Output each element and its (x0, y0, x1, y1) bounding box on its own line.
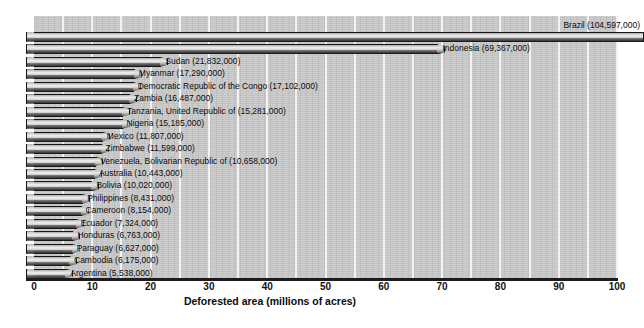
bar-ecuador[interactable] (26, 219, 77, 229)
bar-philippines[interactable] (26, 194, 83, 204)
bar-row[interactable]: Indonesia (69,367,000) (0, 42, 644, 55)
bar-value-label: Paraguay (6,627,000) (77, 242, 159, 255)
bar-row[interactable]: Venezuela, Bolivarian Republic of (10,65… (0, 155, 644, 168)
bar-shadow (27, 88, 133, 91)
bar-value-label: Bolivia (10,020,000) (96, 179, 172, 192)
x-tick-20: 20 (131, 281, 171, 292)
bar-cambodia[interactable] (26, 256, 70, 266)
bar-shadow (27, 187, 91, 190)
x-axis-label: Deforested area (millions of acres) (0, 295, 540, 307)
bar-value-label: Myanmar (17,290,000) (139, 67, 225, 80)
bar-row[interactable]: Cambodia (6,175,000) (0, 254, 644, 267)
bar-zimbabwe[interactable] (26, 144, 102, 154)
bar-value-label: Mexico (11,807,000) (107, 130, 184, 143)
bar-value-label: Sudan (21,832,000) (165, 55, 240, 68)
bar-value-label: Honduras (6,763,000) (77, 229, 160, 242)
bar-value-label: Brazil (104,597,000) (563, 19, 640, 32)
bar-indonesia[interactable] (26, 44, 438, 54)
bar-myanmar[interactable] (26, 69, 135, 79)
bar-honduras[interactable] (26, 231, 73, 241)
x-tick-100: 100 (597, 281, 637, 292)
bar-sudan[interactable] (26, 57, 161, 67)
bar-row[interactable]: Cameroon (8,154,000) (0, 204, 644, 217)
bar-shadow (27, 125, 122, 128)
bar-brazil[interactable] (26, 32, 644, 42)
bar-shadow (27, 237, 72, 240)
bar-shadow (27, 163, 95, 166)
bar-row[interactable]: Honduras (6,763,000) (0, 229, 644, 242)
bar-paraguay[interactable] (26, 244, 73, 254)
bar-bolivia[interactable] (26, 181, 92, 191)
bar-rows: Brazil (104,597,000)Indonesia (69,367,00… (0, 16, 644, 278)
bar-cameroon[interactable] (26, 206, 82, 216)
bar-row[interactable]: Tanzania, United Republic of (15,281,000… (0, 105, 644, 118)
bar-value-label: Zambia (16,487,000) (134, 92, 213, 105)
bar-value-label: Zimbabwe (11,599,000) (106, 142, 195, 155)
bar-row[interactable]: Philippines (8,431,000) (0, 192, 644, 205)
bar-row[interactable]: Zimbabwe (11,599,000) (0, 142, 644, 155)
bar-value-label: Cambodia (6,175,000) (74, 254, 159, 267)
bar-value-label: Philippines (8,431,000) (87, 192, 174, 205)
bar-shadow (27, 63, 160, 66)
bar-value-label: Tanzania, United Republic of (15,281,000… (127, 105, 286, 118)
bar-row[interactable]: Zambia (16,487,000) (0, 92, 644, 105)
bar-value-label: Nigeria (15,185,000) (127, 117, 205, 130)
x-tick-70: 70 (422, 281, 462, 292)
bar-value-label: Venezuela, Bolivarian Republic of (10,65… (100, 155, 277, 168)
bar-shadow (27, 150, 101, 153)
deforestation-bar-chart: Brazil (104,597,000)Indonesia (69,367,00… (0, 0, 644, 328)
bar-row[interactable]: Ecuador (7,324,000) (0, 217, 644, 230)
x-tick-30: 30 (189, 281, 229, 292)
x-tick-60: 60 (364, 281, 404, 292)
bar-value-label: Ecuador (7,324,000) (81, 217, 159, 230)
bar-zambia[interactable] (26, 94, 130, 104)
bar-shadow (27, 200, 82, 203)
bar-tanzania-united-republic-of[interactable] (26, 107, 123, 117)
bar-shadow (27, 38, 643, 41)
x-tick-40: 40 (247, 281, 287, 292)
bar-row[interactable]: Myanmar (17,290,000) (0, 67, 644, 80)
bar-row[interactable]: Democratic Republic of the Congo (17,102… (0, 80, 644, 93)
x-tick-80: 80 (480, 281, 520, 292)
bar-row[interactable]: Brazil (104,597,000) (0, 30, 644, 43)
bar-value-label: Cameroon (8,154,000) (86, 204, 172, 217)
bar-row[interactable]: Australia (10,443,000) (0, 167, 644, 180)
bar-shadow (27, 100, 129, 103)
bar-shadow (27, 175, 94, 178)
bar-row[interactable]: Paraguay (6,627,000) (0, 242, 644, 255)
x-tick-0: 0 (14, 281, 54, 292)
bar-venezuela-bolivarian-republic-of[interactable] (26, 157, 96, 167)
x-tick-10: 10 (72, 281, 112, 292)
bar-mexico[interactable] (26, 132, 103, 142)
bar-shadow (27, 262, 69, 265)
bar-row[interactable]: Nigeria (15,185,000) (0, 117, 644, 130)
bar-shadow (27, 225, 76, 228)
bar-value-label: Democratic Republic of the Congo (17,102… (138, 80, 318, 93)
bar-shadow (27, 250, 72, 253)
bar-shadow (27, 113, 122, 116)
bar-nigeria[interactable] (26, 119, 123, 129)
bar-shadow (27, 75, 134, 78)
bar-row[interactable]: Mexico (11,807,000) (0, 130, 644, 143)
bar-value-label: Australia (10,443,000) (99, 167, 183, 180)
x-tick-50: 50 (306, 281, 346, 292)
bar-australia[interactable] (26, 169, 95, 179)
bar-shadow (27, 212, 81, 215)
bar-row[interactable]: Sudan (21,832,000) (0, 55, 644, 68)
x-tick-90: 90 (539, 281, 579, 292)
bar-shadow (27, 138, 102, 141)
bar-row[interactable]: Bolivia (10,020,000) (0, 179, 644, 192)
bar-value-label: Indonesia (69,367,000) (442, 42, 529, 55)
bar-democratic-republic-of-the-congo[interactable] (26, 82, 134, 92)
bar-shadow (27, 50, 437, 53)
